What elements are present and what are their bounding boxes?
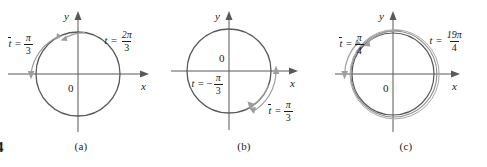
panel-a: 0 x y t = π 3 t = 2π 3 (a) [0, 0, 162, 167]
equals-sign: = [272, 106, 284, 117]
fraction: 2π 3 [120, 30, 134, 53]
fraction-numerator: 19π [445, 30, 464, 41]
panel-a-diagram: 0 x y [0, 0, 162, 140]
equals-sign: = [108, 36, 120, 47]
fraction-denominator: 3 [24, 44, 33, 56]
fraction-numerator: π [355, 33, 364, 44]
y-axis [75, 11, 82, 132]
fraction-denominator: 3 [284, 111, 293, 123]
t-value-label-a: t = 2π 3 [104, 30, 134, 53]
reference-number-label-c: t = π 4 [339, 33, 364, 56]
tbar-variable: t [268, 106, 272, 117]
tbar-variable: t [339, 39, 343, 50]
tbar-variable: t [8, 39, 12, 50]
origin-label: 0 [68, 82, 74, 94]
panel-a-caption: (a) [0, 140, 162, 152]
fraction: π 3 [284, 100, 293, 123]
equals-sign: = [12, 39, 24, 50]
fraction: π 4 [355, 33, 364, 56]
t-value-label-b: t = − π 3 [191, 73, 223, 96]
panel-b-diagram: 0 x y [163, 0, 325, 140]
fraction: π 3 [214, 73, 223, 96]
reference-arc [28, 33, 62, 80]
fraction-numerator: π [214, 73, 223, 84]
equals-sign: = [343, 39, 355, 50]
panel-c-caption: (c) [325, 140, 487, 152]
x-axis-label: x [289, 77, 295, 89]
minus-sign: − [207, 79, 214, 90]
x-axis-label: x [451, 80, 457, 92]
panel-b: 0 x y t = − π 3 t = π 3 (b) [163, 0, 325, 167]
panel-c-diagram: 0 x y [325, 0, 487, 140]
reference-number-label-a: t = π 3 [8, 33, 33, 56]
x-axis-label: x [140, 80, 146, 92]
fraction-numerator: π [24, 33, 33, 44]
y-axis-label: y [378, 10, 384, 22]
equals-sign: = [195, 79, 207, 90]
fraction-denominator: 4 [450, 41, 459, 53]
x-axis [335, 71, 460, 78]
fraction-denominator: 3 [122, 41, 131, 53]
origin-label: 0 [383, 82, 389, 94]
origin-label: 0 [219, 52, 225, 64]
y-axis-label: y [214, 10, 220, 22]
panel-c: 0 x y t = π 4 t = 19π 4 (c) [325, 0, 487, 167]
unit-circle-reference-number-figure: 4 [0, 0, 487, 167]
fraction-denominator: 4 [355, 44, 364, 56]
t-variable: t [429, 36, 433, 47]
fraction: 19π 4 [445, 30, 464, 53]
t-variable: t [191, 79, 195, 90]
reference-number-label-b: t = π 3 [268, 100, 293, 123]
fraction-denominator: 3 [214, 84, 223, 96]
terminal-point-arrow [248, 85, 269, 109]
y-axis [390, 11, 397, 132]
equals-sign: = [433, 36, 445, 47]
panel-b-caption: (b) [163, 140, 325, 152]
y-axis-label: y [63, 10, 69, 22]
t-value-label-c: t = 19π 4 [429, 30, 464, 53]
fraction-numerator: π [284, 100, 293, 111]
fraction: π 3 [24, 33, 33, 56]
t-variable: t [104, 36, 108, 47]
fraction-numerator: 2π [120, 30, 134, 41]
